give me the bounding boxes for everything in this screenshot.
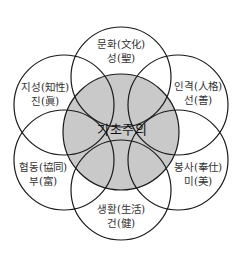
center-label: 기초주의: [97, 119, 147, 138]
label-bottom-left: 협동(協同) 부(富): [19, 160, 67, 188]
label-top-left-line1: 지성(知性): [21, 80, 69, 94]
label-top-right: 인격(人格) 선(善): [174, 79, 222, 107]
label-bottom-right-line1: 봉사(奉仕): [174, 160, 222, 174]
label-bottom-left-line1: 협동(協同): [19, 160, 67, 174]
label-top-line2: 성(聖): [97, 51, 145, 65]
label-top-right-line2: 선(善): [174, 93, 222, 107]
label-bottom-line1: 생활(生活): [97, 202, 145, 216]
label-bottom-line2: 건(健): [97, 216, 145, 230]
label-top-left-line2: 진(眞): [21, 94, 69, 108]
label-top-line1: 문화(文化): [97, 37, 145, 51]
label-bottom-left-line2: 부(富): [19, 174, 67, 188]
label-top-right-line1: 인격(人格): [174, 79, 222, 93]
label-bottom: 생활(生活) 건(健): [97, 202, 145, 230]
label-top: 문화(文化) 성(聖): [97, 37, 145, 65]
label-top-left: 지성(知性) 진(眞): [21, 80, 69, 108]
label-bottom-right: 봉사(奉仕) 미(美): [174, 160, 222, 188]
label-bottom-right-line2: 미(美): [174, 174, 222, 188]
